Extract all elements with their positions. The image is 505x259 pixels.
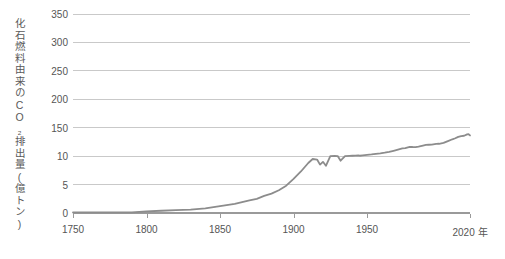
x-tick-label: 1900 — [282, 224, 304, 235]
x-tick-mark — [294, 214, 295, 218]
y-tick-label: 150 — [26, 122, 68, 133]
x-tick-mark — [367, 214, 368, 218]
y-tick-label: 200 — [26, 94, 68, 105]
y-tick-label: 10 — [26, 151, 68, 162]
x-tick-label: 2020 年 — [452, 224, 487, 239]
y-tick-label: 0 — [26, 208, 68, 219]
x-tick-mark — [147, 214, 148, 218]
y-tick-label: 5 — [26, 179, 68, 190]
plot-area — [73, 14, 470, 213]
x-tick-mark — [220, 214, 221, 218]
x-tick-label: 1850 — [209, 224, 231, 235]
y-axis-tick-labels: 0510150200250300350 — [22, 14, 68, 213]
x-axis-tick-marks — [73, 214, 470, 219]
y-tick-label: 300 — [26, 37, 68, 48]
x-axis-tick-labels: 175018001850190019502020 年 — [73, 224, 470, 238]
chart-figure: 化石燃料由来のCO₂排出量(億トン) 0510150200250300350 1… — [0, 0, 505, 259]
y-tick-label: 250 — [26, 65, 68, 76]
x-tick-mark — [73, 214, 74, 218]
series-line-chart — [73, 14, 470, 213]
series-line-path — [73, 134, 470, 212]
x-tick-label: 1950 — [356, 224, 378, 235]
x-tick-label: 1800 — [135, 224, 157, 235]
x-tick-mark — [470, 214, 471, 218]
y-tick-label: 350 — [26, 9, 68, 20]
x-tick-label: 1750 — [62, 224, 84, 235]
